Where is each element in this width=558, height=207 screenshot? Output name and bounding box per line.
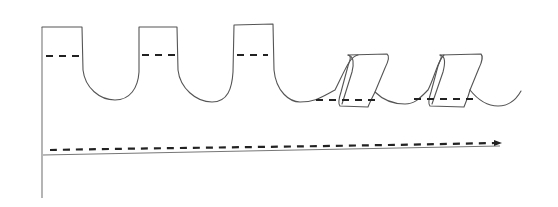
dashed-arrow-line <box>50 143 495 150</box>
diagram-canvas <box>0 0 558 207</box>
profile-outline <box>42 24 358 102</box>
sketch-svg <box>0 0 558 207</box>
wave-between-folds <box>375 55 444 104</box>
fold-1-inner <box>342 55 353 104</box>
trailing-curve <box>470 90 521 106</box>
arrowhead-icon <box>494 140 502 146</box>
